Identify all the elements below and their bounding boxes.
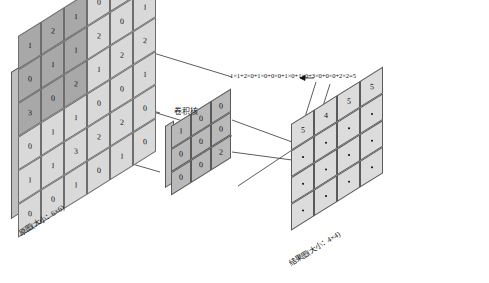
- cell-value: 0: [28, 142, 32, 150]
- cell-value: 2: [97, 133, 101, 141]
- cell-value: 1: [28, 176, 32, 184]
- cell-dot-marker: [371, 113, 373, 115]
- cell-value: 1: [143, 70, 147, 78]
- result-image-label: 结果图(大小：4×4): [286, 228, 342, 268]
- cell-value: 5: [370, 83, 374, 91]
- cell-value: 2: [74, 80, 78, 88]
- cell-value: 1: [179, 127, 183, 135]
- figure-canvas: 121023011201302122011001113220001010 原图(…: [0, 0, 489, 283]
- cell-value: 2: [51, 27, 55, 35]
- cell-dot-marker: [325, 168, 327, 170]
- cell-value: 0: [97, 0, 101, 7]
- cell-value: 1: [51, 162, 55, 170]
- cell-dot-marker: [325, 141, 327, 143]
- cell-value: 0: [28, 75, 32, 83]
- cell-value: 2: [120, 119, 124, 127]
- cell-value: 1: [51, 61, 55, 69]
- source-image-grid: 121023011201302122011001113220001010: [18, 0, 156, 238]
- cell-dot-marker: [371, 166, 373, 168]
- cell-value: 1: [51, 128, 55, 136]
- cell-value: 0: [179, 150, 183, 158]
- cell-value: 5: [347, 97, 351, 105]
- cell-value: 0: [97, 99, 101, 107]
- cell-value: 0: [179, 174, 183, 182]
- result-image-grid: 5455: [291, 67, 383, 231]
- cell-value: 0: [219, 102, 223, 110]
- cell-value: 1: [120, 152, 124, 160]
- cell-value: 1: [74, 13, 78, 21]
- cell-value: 4: [324, 112, 328, 120]
- cell-value: 0: [51, 195, 55, 203]
- cell-value: 0: [199, 138, 203, 146]
- cell-value: 1: [74, 46, 78, 54]
- cell-value: 0: [143, 104, 147, 112]
- cell-dot-marker: [325, 195, 327, 197]
- cell-value: 0: [143, 138, 147, 146]
- cell-value: 2: [97, 32, 101, 40]
- cell-dot-marker: [348, 127, 350, 129]
- cell-value: 0: [120, 85, 124, 93]
- cell-value: 1: [97, 66, 101, 74]
- cell-dot-marker: [348, 180, 350, 182]
- cell-value: 1: [74, 114, 78, 122]
- kernel-label: 卷积核: [174, 105, 198, 116]
- cell-dot-marker: [302, 156, 304, 158]
- cell-value: 0: [51, 94, 55, 102]
- cell-value: 3: [74, 147, 78, 155]
- cell-value: 3: [28, 109, 32, 117]
- cell-value: 0: [219, 125, 223, 133]
- cell-dot-marker: [371, 139, 373, 141]
- cell-value: 0: [97, 167, 101, 175]
- cell-value: 0: [199, 115, 203, 123]
- cell-value: 2: [120, 51, 124, 59]
- cell-value: 2: [143, 37, 147, 45]
- cell-value: 0: [199, 161, 203, 169]
- cell-value: 5: [301, 126, 305, 134]
- cell-value: 2: [219, 149, 223, 157]
- cell-value: 0: [120, 18, 124, 26]
- cell-dot-marker: [302, 182, 304, 184]
- cell-dot-marker: [302, 209, 304, 211]
- cell-value: 1: [74, 181, 78, 189]
- cell-value: 0: [28, 210, 32, 218]
- cell-dot-marker: [348, 154, 350, 156]
- convolution-formula-annotation: 1×1+2×0+1×0+0×0+1×0+1×0+3×0+0×0+2×2=5: [230, 72, 356, 79]
- cell-value: 1: [28, 41, 32, 49]
- cell-value: 1: [143, 3, 147, 11]
